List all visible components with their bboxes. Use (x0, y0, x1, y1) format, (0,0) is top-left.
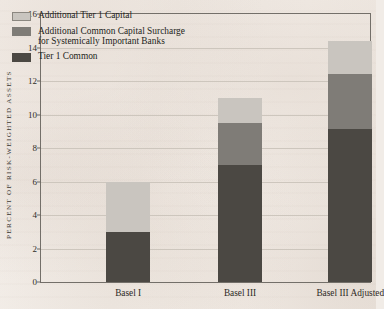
y-axis-tick-mark (37, 114, 41, 115)
x-axis-tick-label: Basel III Adjusted (316, 288, 384, 298)
bar-segment[interactable] (218, 98, 262, 123)
legend-item[interactable]: Additional Common Capital Surcharge for … (12, 26, 185, 47)
y-axis-tick-label: 0 (33, 277, 38, 287)
bar-group[interactable]: Basel III (218, 14, 262, 282)
legend-swatch-icon (12, 27, 31, 36)
legend-item-label: Additional Tier 1 Capital (38, 10, 132, 20)
y-axis-tick-mark (37, 215, 41, 216)
bar-segment[interactable] (106, 232, 150, 282)
legend-item-label: Tier 1 Common (38, 51, 98, 61)
bar-segment[interactable] (328, 41, 372, 75)
y-axis-tick-label: 2 (33, 244, 38, 254)
y-axis-tick-label: 8 (33, 143, 38, 153)
gridline (41, 249, 370, 250)
x-axis-tick-label: Basel III (224, 288, 256, 298)
y-axis-tick-label: 12 (28, 76, 37, 86)
bar-segment[interactable] (328, 129, 372, 282)
gridline (41, 115, 370, 116)
legend-item[interactable]: Additional Tier 1 Capital (12, 10, 185, 21)
bar-segment[interactable] (218, 165, 262, 282)
legend-swatch-icon (12, 53, 31, 62)
y-axis-tick-mark (37, 181, 41, 182)
y-axis-tick-label: 10 (28, 110, 37, 120)
gridline (41, 215, 370, 216)
chart-legend: Additional Tier 1 CapitalAdditional Comm… (12, 10, 185, 62)
bar-segment[interactable] (218, 123, 262, 165)
y-axis-tick-mark (37, 248, 41, 249)
gridline (41, 148, 370, 149)
y-axis-tick-mark (37, 81, 41, 82)
gridline (41, 182, 370, 183)
gridline (41, 81, 370, 82)
bar-segment[interactable] (328, 74, 372, 128)
bar-segment[interactable] (106, 182, 150, 232)
legend-item-label: Additional Common Capital Surcharge for … (38, 26, 185, 47)
y-axis-tick-mark (37, 148, 41, 149)
x-axis-tick-label: Basel I (115, 288, 141, 298)
y-axis-tick-label: 4 (33, 210, 38, 220)
bar-group[interactable]: Basel III Adjusted (328, 14, 372, 282)
legend-item[interactable]: Tier 1 Common (12, 51, 185, 62)
y-axis-tick-mark (37, 282, 41, 283)
legend-swatch-icon (12, 12, 31, 21)
y-axis-tick-label: 6 (33, 177, 38, 187)
